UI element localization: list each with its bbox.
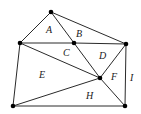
region-label-a: A <box>45 24 53 35</box>
region-label-e: E <box>38 69 45 80</box>
vertex-center-top <box>72 41 77 46</box>
region-label-d: D <box>98 50 107 61</box>
vertex-left-mid <box>18 41 23 46</box>
vertices-group <box>11 10 129 109</box>
region-diagram: ABCDEFHI <box>0 0 141 114</box>
diagram-canvas: ABCDEFHI <box>0 0 141 114</box>
vertex-bottom-right <box>123 104 128 109</box>
edge-left-mid-center <box>20 43 100 78</box>
edge-center-bottom-right <box>100 78 125 106</box>
vertex-bottom-left <box>11 104 16 109</box>
region-label-f: F <box>110 71 118 82</box>
labels-group: ABCDEFHI <box>38 24 134 101</box>
edge-center-top-right-top <box>74 43 126 44</box>
edge-right-top-bottom-right <box>125 44 126 106</box>
vertex-right-top <box>124 42 129 47</box>
region-label-h: H <box>85 90 94 101</box>
vertex-top <box>49 10 54 15</box>
edges-group <box>13 12 126 106</box>
region-label-i: I <box>129 72 134 83</box>
region-label-c: C <box>63 47 70 58</box>
region-label-b: B <box>76 28 82 39</box>
edge-left-mid-bottom-left <box>13 43 20 106</box>
vertex-center <box>98 76 103 81</box>
